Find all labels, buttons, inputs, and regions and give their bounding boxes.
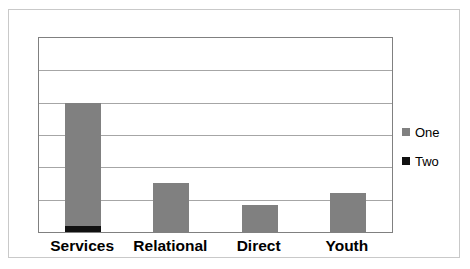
x-axis-label: Direct xyxy=(215,237,303,255)
chart-screenshot: ServicesRelationalDirectYouth OneTwo xyxy=(0,0,470,269)
legend-swatch-icon xyxy=(402,157,410,165)
bar-segment-one[interactable] xyxy=(65,103,101,232)
bar-segment-one[interactable] xyxy=(153,183,189,232)
legend-swatch-icon xyxy=(402,128,410,136)
legend-label: Two xyxy=(415,155,439,168)
plot-area xyxy=(38,37,393,233)
legend-label: One xyxy=(415,126,440,139)
bar-group[interactable] xyxy=(153,183,189,232)
bars-layer xyxy=(39,38,392,232)
bar-group[interactable] xyxy=(242,205,278,232)
chart-legend: OneTwo xyxy=(402,122,462,180)
bar-segment-one[interactable] xyxy=(242,205,278,232)
legend-item[interactable]: One xyxy=(402,122,462,142)
legend-item[interactable]: Two xyxy=(402,151,462,171)
x-axis-label: Relational xyxy=(126,237,214,255)
bar-group[interactable] xyxy=(330,193,366,232)
x-axis-label: Youth xyxy=(303,237,391,255)
bar-segment-two[interactable] xyxy=(65,226,101,232)
chart-frame: ServicesRelationalDirectYouth OneTwo xyxy=(8,9,460,258)
bar-segment-one[interactable] xyxy=(330,193,366,232)
bar-group[interactable] xyxy=(65,103,101,232)
x-axis-labels: ServicesRelationalDirectYouth xyxy=(38,237,393,261)
x-axis-label: Services xyxy=(38,237,126,255)
